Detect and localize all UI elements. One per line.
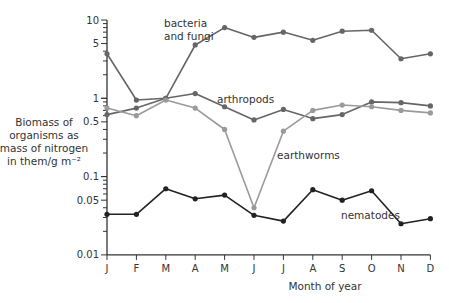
data-point-earthworms [222,127,227,132]
series-label-nematodes: nematodes [341,209,400,221]
data-point-bacteria-and-fungi [193,42,198,47]
series-labels: bacteriaand fungiarthropodsearthwormsnem… [164,17,400,221]
data-point-bacteria-and-fungi [251,35,256,40]
data-point-nematodes [281,219,286,224]
data-point-arthropods [340,112,345,117]
data-point-nematodes [428,216,433,221]
data-point-arthropods [369,99,374,104]
data-point-nematodes [134,212,139,217]
x-tick-label: M [220,263,229,274]
data-point-arthropods [251,117,256,122]
data-point-nematodes [104,212,109,217]
x-tick-label: N [397,263,404,274]
x-tick-label: A [309,263,316,274]
y-axis-title-line: in them/g m⁻² [7,155,81,167]
y-tick-label: 5 [93,38,99,49]
x-tick-label: D [427,263,435,274]
data-point-earthworms [163,97,168,102]
data-point-arthropods [134,105,139,110]
data-point-arthropods [104,112,109,117]
data-point-earthworms [340,102,345,107]
y-axis-title-line: mass of nitrogen [0,142,88,154]
data-point-bacteria-and-fungi [310,38,315,43]
line-chart: 10510.50.10.050.01 JFMAMJJASOND bacteria… [0,0,449,303]
data-point-nematodes [369,188,374,193]
y-axis-title-line: Biomass of [15,116,73,128]
data-point-nematodes [398,221,403,226]
data-point-arthropods [193,91,198,96]
series-line-earthworms [107,100,430,208]
data-point-bacteria-and-fungi [134,97,139,102]
data-point-nematodes [163,186,168,191]
series-lines [104,25,433,226]
series-label-arthropods: arthropods [217,93,274,105]
x-tick-label: J [281,263,285,274]
data-point-arthropods [281,107,286,112]
y-tick-label: 10 [86,15,99,26]
data-point-earthworms [398,108,403,113]
x-tick-label: F [134,263,140,274]
x-axis-title: Month of year [288,280,362,292]
data-point-earthworms [193,105,198,110]
data-point-arthropods [310,116,315,121]
y-axis-title-line: organisms as [9,129,79,141]
data-point-arthropods [428,103,433,108]
x-axis: JFMAMJJASOND [105,255,435,274]
series-line-bacteria-and-fungi [107,28,430,100]
data-point-nematodes [251,213,256,218]
data-point-bacteria-and-fungi [340,29,345,34]
data-point-nematodes [340,198,345,203]
data-point-earthworms [369,104,374,109]
data-point-earthworms [428,110,433,115]
y-tick-label: 0.05 [77,195,99,206]
y-tick-label: 0.1 [83,171,99,182]
data-point-nematodes [193,196,198,201]
data-point-nematodes [310,187,315,192]
series-label-bacteria-and-fungi: and fungi [164,30,214,42]
series-label-bacteria-and-fungi: bacteria [164,17,207,29]
x-tick-label: A [192,263,199,274]
series-label-earthworms: earthworms [277,149,340,161]
data-point-bacteria-and-fungi [369,28,374,33]
y-tick-label: 0.01 [77,249,99,260]
data-point-arthropods [398,100,403,105]
y-tick-label: 0.5 [83,116,99,127]
y-axis-title: Biomass oforganisms asmass of nitrogenin… [0,116,88,167]
data-point-bacteria-and-fungi [281,30,286,35]
data-point-earthworms [281,129,286,134]
data-point-earthworms [104,105,109,110]
data-point-bacteria-and-fungi [398,56,403,61]
data-point-earthworms [251,205,256,210]
y-tick-label: 1 [93,93,99,104]
x-tick-label: M [161,263,170,274]
x-tick-label: J [105,263,109,274]
y-axis: 10510.50.10.050.01 [77,15,107,261]
data-point-bacteria-and-fungi [104,51,109,56]
data-point-bacteria-and-fungi [428,51,433,56]
x-tick-label: J [252,263,256,274]
data-point-earthworms [134,113,139,118]
x-tick-label: O [368,263,376,274]
data-point-earthworms [310,108,315,113]
data-point-bacteria-and-fungi [222,25,227,30]
x-tick-label: S [339,263,345,274]
data-point-nematodes [222,193,227,198]
